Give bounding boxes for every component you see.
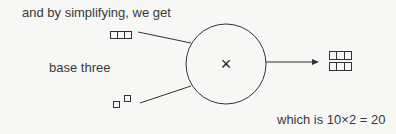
two-box-input-icon	[114, 96, 131, 108]
arrow-head-icon	[312, 59, 319, 65]
multiplication-diagram: ×	[0, 0, 396, 134]
output-grid-icon	[330, 52, 352, 71]
three-box-input-icon	[111, 32, 132, 39]
input-line-bottom	[140, 86, 191, 103]
input-line-top	[138, 32, 191, 43]
multiply-symbol: ×	[221, 54, 232, 74]
